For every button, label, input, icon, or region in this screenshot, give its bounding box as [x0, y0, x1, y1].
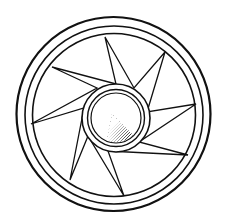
wheel-illustration: Wheel line drawing: [0, 0, 230, 224]
wheel-drawing: [0, 0, 230, 224]
wheel-hub: [82, 84, 150, 152]
